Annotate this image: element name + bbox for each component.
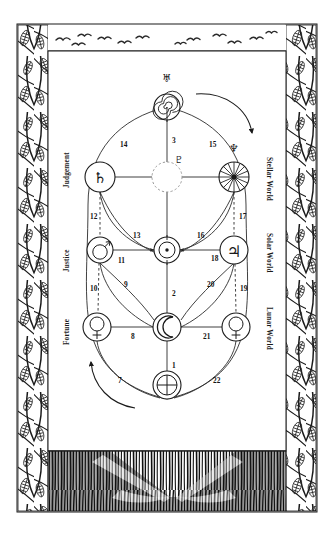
pluto-icon: ♇	[175, 154, 184, 165]
path-number-13: 13	[133, 232, 140, 239]
saturn-icon: ♄	[93, 169, 106, 187]
path-number-16: 16	[197, 232, 204, 239]
sun-icon	[165, 248, 168, 251]
label-solar-world: Solar World	[265, 233, 272, 273]
path-number-14: 14	[120, 141, 127, 148]
node-yesod-moon	[153, 313, 181, 341]
label-judgement: Judgement	[64, 152, 71, 188]
path-number-11: 11	[118, 257, 125, 264]
label-justice: Justice	[64, 249, 71, 272]
node-geburah-mars	[87, 237, 113, 263]
path-number-3: 3	[172, 137, 176, 144]
diagram-page: ♅ ♇ ♄ ♆	[0, 0, 334, 537]
label-fortune: Fortune	[64, 319, 71, 345]
path-number-2: 2	[172, 290, 176, 297]
uranus-icon: ♅	[162, 72, 172, 85]
neptune-icon: ♆	[229, 142, 239, 155]
path-number-8: 8	[131, 333, 135, 340]
label-stellar-world: Stellar World	[265, 157, 272, 201]
path-number-18: 18	[211, 255, 218, 262]
path-number-17: 17	[239, 213, 246, 220]
path-number-20: 20	[207, 281, 214, 288]
path-number-9: 9	[124, 281, 128, 288]
path-number-15: 15	[209, 141, 216, 148]
path-number-10: 10	[90, 285, 97, 292]
path-number-1: 1	[172, 362, 176, 369]
path-number-22: 22	[213, 377, 220, 384]
node-binah-saturn: ♄	[85, 162, 115, 192]
path-number-12: 12	[90, 213, 97, 220]
sky-band-with-birds	[48, 25, 286, 52]
node-netzach-mercury	[222, 313, 250, 341]
wheat-border-right	[286, 25, 316, 511]
reed-field-bottom	[48, 451, 286, 511]
wheat-border-left	[18, 25, 48, 511]
node-chesed-jupiter: ♃	[220, 236, 248, 264]
node-hod-venus	[83, 313, 111, 341]
path-number-19: 19	[240, 285, 247, 292]
label-lunar-world: Lunar World	[265, 307, 272, 350]
tree-of-life-figure: ♅ ♇ ♄ ♆	[0, 0, 334, 537]
jupiter-icon: ♃	[227, 242, 241, 261]
path-number-21: 21	[203, 333, 210, 340]
path-number-7: 7	[118, 377, 122, 384]
node-malkuth-earth	[153, 371, 181, 399]
